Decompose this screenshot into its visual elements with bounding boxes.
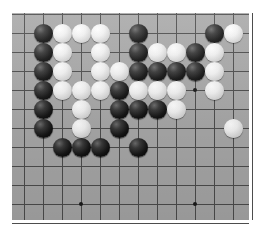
black-stone[interactable]	[34, 62, 53, 81]
white-stone[interactable]	[72, 119, 91, 138]
black-stone[interactable]	[167, 62, 186, 81]
black-stone[interactable]	[34, 100, 53, 119]
go-board-app	[0, 0, 263, 232]
black-stone[interactable]	[34, 81, 53, 100]
black-stone[interactable]	[72, 138, 91, 157]
white-stone[interactable]	[91, 43, 110, 62]
black-stone[interactable]	[129, 100, 148, 119]
white-stone[interactable]	[129, 81, 148, 100]
black-stone[interactable]	[129, 24, 148, 43]
black-stone[interactable]	[129, 138, 148, 157]
white-stone[interactable]	[53, 43, 72, 62]
go-board-stones[interactable]	[12, 13, 249, 220]
white-stone[interactable]	[91, 62, 110, 81]
black-stone[interactable]	[34, 24, 53, 43]
black-stone[interactable]	[186, 43, 205, 62]
white-stone[interactable]	[91, 24, 110, 43]
white-stone[interactable]	[205, 81, 224, 100]
white-stone[interactable]	[205, 62, 224, 81]
black-stone[interactable]	[186, 62, 205, 81]
black-stone[interactable]	[110, 100, 129, 119]
white-stone[interactable]	[72, 81, 91, 100]
black-stone[interactable]	[129, 43, 148, 62]
black-stone[interactable]	[148, 100, 167, 119]
white-stone[interactable]	[167, 43, 186, 62]
black-stone[interactable]	[34, 119, 53, 138]
black-stone[interactable]	[110, 81, 129, 100]
black-stone[interactable]	[91, 138, 110, 157]
white-stone[interactable]	[53, 62, 72, 81]
black-stone[interactable]	[129, 62, 148, 81]
white-stone[interactable]	[148, 81, 167, 100]
white-stone[interactable]	[167, 100, 186, 119]
black-stone[interactable]	[205, 24, 224, 43]
black-stone[interactable]	[148, 62, 167, 81]
white-stone[interactable]	[167, 81, 186, 100]
white-stone[interactable]	[224, 24, 243, 43]
black-stone[interactable]	[110, 119, 129, 138]
grid-line-horizontal	[12, 223, 249, 224]
white-stone[interactable]	[110, 62, 129, 81]
grid-line-vertical	[252, 13, 253, 220]
white-stone[interactable]	[53, 81, 72, 100]
black-stone[interactable]	[53, 138, 72, 157]
white-stone[interactable]	[72, 24, 91, 43]
white-stone[interactable]	[148, 43, 167, 62]
go-board-surface[interactable]	[12, 13, 249, 220]
black-stone[interactable]	[34, 43, 53, 62]
white-stone[interactable]	[224, 119, 243, 138]
white-stone[interactable]	[53, 24, 72, 43]
white-stone[interactable]	[91, 81, 110, 100]
white-stone[interactable]	[205, 43, 224, 62]
white-stone[interactable]	[72, 100, 91, 119]
